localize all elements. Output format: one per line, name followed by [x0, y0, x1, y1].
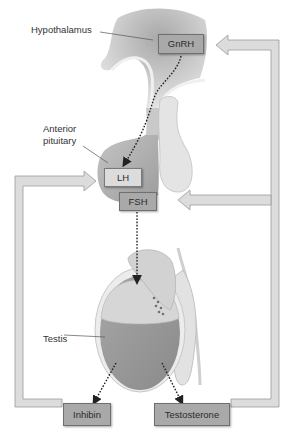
inhibin-box: Inhibin — [63, 403, 111, 426]
hormone-feedback-diagram: Hypothalamus Anterior pituitary Testis G… — [0, 0, 303, 448]
anterior-pituitary-label-line1: Anterior — [43, 123, 76, 134]
gnrh-box: GnRH — [158, 34, 204, 54]
testis-label: Testis — [43, 333, 67, 344]
hypothalamus-label: Hypothalamus — [31, 24, 92, 35]
fsh-box: FSH — [119, 192, 157, 211]
testis-tissue — [95, 248, 200, 392]
testosterone-box: Testosterone — [154, 403, 230, 426]
anterior-pituitary-label-line2: pituitary — [43, 135, 76, 146]
diagram-artwork — [0, 0, 303, 448]
lh-box: LH — [104, 168, 142, 187]
